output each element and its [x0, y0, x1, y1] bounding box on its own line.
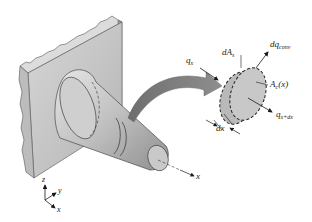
dx-label: dx	[216, 124, 225, 133]
qx-label: qx	[186, 56, 193, 66]
dAs-base: dA	[222, 47, 232, 57]
dqconv-base: dq	[270, 39, 279, 49]
dAs-sub: s	[232, 52, 234, 58]
qxdx-sub: x+dx	[281, 114, 293, 120]
dqconv-arrow	[256, 52, 268, 68]
y-axis-label: y	[58, 187, 62, 195]
fin-diagram	[0, 0, 312, 222]
dqconv-sub: conv	[279, 44, 290, 50]
Ac-suffix: (x)	[278, 79, 288, 89]
dqconv-label: dqconv	[270, 40, 290, 50]
coordinate-axes	[45, 185, 56, 208]
fin-axis-label: x	[196, 172, 200, 181]
differential-element	[213, 63, 272, 129]
dAs-label: dAs	[222, 48, 234, 58]
x-axis-label: x	[57, 206, 61, 214]
qxdx-label: qx+dx	[276, 110, 293, 120]
Ac-label: Ac(x)	[270, 80, 288, 90]
qx-sub: x	[191, 60, 194, 66]
magnify-arrow	[128, 72, 222, 122]
z-axis-label: z	[42, 176, 45, 184]
